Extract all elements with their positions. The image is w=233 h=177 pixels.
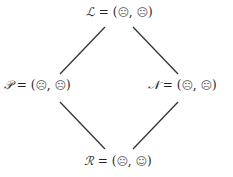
close-paren: ) [148,5,153,19]
node-right: 𝒩 = (☹, ☹) [148,78,217,93]
equals-open: = ( [95,5,117,19]
face-icon: ☹ [117,6,128,19]
edge-top-left [60,27,105,74]
edge-left-bottom [60,102,105,149]
face-icon: ☹ [116,155,127,168]
edge-top-right [133,27,178,74]
symbol-P: 𝒫 [4,78,13,92]
node-left: 𝒫 = (☹, ☹) [4,78,71,93]
face-icon: ☹ [35,79,46,92]
face-icon: ☹ [181,79,192,92]
equals-open: = ( [13,78,35,92]
close-paren: ) [66,78,71,92]
face-icon: ☺ [135,155,146,168]
face-icon: ☹ [54,79,65,92]
close-paren: ) [212,78,217,92]
node-bottom: ℛ = (☹, ☺) [84,154,152,169]
edge-right-bottom [133,102,178,149]
face-icon: ☹ [136,6,147,19]
symbol-R: ℛ [84,154,94,168]
symbol-L: ℒ [86,5,95,19]
equals-open: = ( [159,78,181,92]
close-paren: ) [147,154,152,168]
face-icon: ☹ [200,79,211,92]
node-top: ℒ = (☹, ☹) [86,5,153,20]
symbol-N: 𝒩 [148,78,159,92]
equals-open: = ( [94,154,116,168]
